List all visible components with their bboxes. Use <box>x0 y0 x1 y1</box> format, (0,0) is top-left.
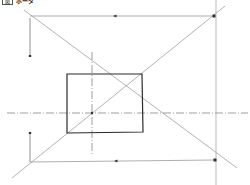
center-point <box>91 112 93 114</box>
diagonal-line-ascending <box>12 6 225 178</box>
bottom-right-corner-marker <box>214 159 217 162</box>
bottom-left-vertical-end-marker <box>29 132 31 134</box>
bottom-arrow-icon <box>114 160 118 163</box>
diagonal-line-descending <box>24 10 237 168</box>
top-left-vertical-end-marker <box>29 55 31 57</box>
perspective-drawing <box>0 0 250 185</box>
top-arrow-icon <box>113 15 117 18</box>
bottom-horizontal-line <box>30 160 215 162</box>
top-right-corner-marker <box>213 15 216 18</box>
